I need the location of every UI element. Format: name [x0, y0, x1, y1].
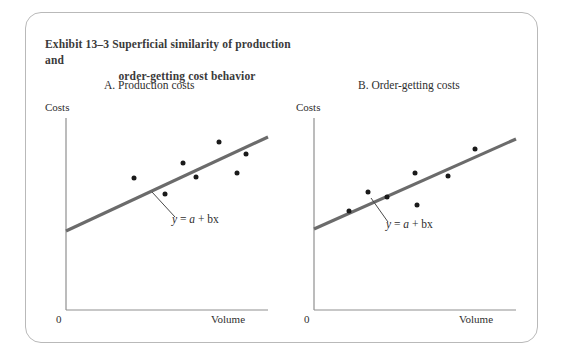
data-point	[473, 147, 478, 152]
data-point	[366, 190, 371, 195]
plot-canvas	[0, 0, 563, 360]
data-point	[446, 174, 451, 179]
data-point	[244, 152, 249, 157]
exhibit-figure: Exhibit 13–3 Superficial similarity of p…	[0, 0, 563, 360]
panel-a-axes	[66, 118, 268, 310]
data-point	[194, 175, 199, 180]
data-point	[217, 140, 222, 145]
panel-a-regression-line	[66, 137, 268, 231]
data-point	[415, 203, 420, 208]
data-point	[347, 209, 352, 214]
data-point	[181, 161, 186, 166]
panel-b-data-points	[347, 147, 478, 214]
panel-b-leader-line	[371, 198, 388, 222]
panel-b-regression-line	[314, 139, 516, 229]
panel-a-data-points	[132, 140, 249, 197]
data-point	[132, 176, 137, 181]
data-point	[413, 171, 418, 176]
data-point	[163, 192, 168, 197]
data-point	[385, 195, 390, 200]
data-point	[235, 171, 240, 176]
